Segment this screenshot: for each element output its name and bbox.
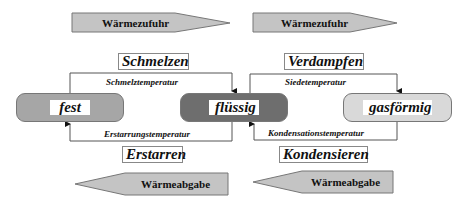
heat-supply-label-left: Wärmezufuhr [102, 17, 169, 29]
state-solid: fest [16, 93, 124, 122]
process-solidifying: Erstarren [122, 146, 183, 163]
state-liquid: flüssig [180, 93, 288, 122]
heat-supply-label-right: Wärmezufuhr [281, 17, 348, 29]
process-melting: Schmelzen [118, 53, 189, 70]
temp-freezing-point: Erstarrungstemperatur [104, 129, 190, 139]
temp-boiling-point: Siedetemperatur [285, 77, 346, 87]
process-evaporating: Verdampfen [284, 53, 364, 70]
state-solid-label: fest [50, 100, 90, 115]
heat-release-label-right: Wärmeabgabe [311, 176, 380, 188]
temp-condensation-point: Kondensationstemperatur [268, 128, 364, 138]
state-gas: gasförmig [343, 93, 452, 122]
heat-release-label-left: Wärmeabgabe [141, 178, 210, 190]
process-condensing: Kondensieren [279, 146, 368, 163]
state-liquid-label: flüssig [209, 100, 259, 115]
temp-melting-point: Schmelztemperatur [106, 77, 178, 87]
state-gas-label: gasförmig [363, 100, 432, 115]
